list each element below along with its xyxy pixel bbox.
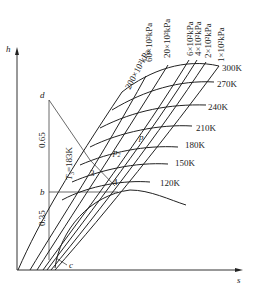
isobar-label-2: 2×10²kPa <box>203 23 213 58</box>
isotherm-label-180: 180K <box>185 140 206 150</box>
saturation-curve <box>55 190 186 268</box>
s-axis-label: s <box>237 275 241 285</box>
point-b-label: b <box>40 187 45 197</box>
isobar-20 <box>37 65 168 270</box>
point-c-label: c <box>69 260 73 270</box>
s-axis-arrow-icon <box>235 268 243 272</box>
h-s-diagram: 200×10²kPa 60×10²kPa 20×10²kPa 6×10²kPa … <box>0 0 253 286</box>
isobar-label-60: 60×10²kPa <box>144 23 154 62</box>
isobar-label-20: 20×10²kPa <box>162 19 172 58</box>
isobar-label-4: 4×10²kPa <box>193 21 203 56</box>
fraction-upper-label: 0.65 <box>37 132 47 148</box>
point-d-label: d <box>40 90 45 100</box>
isobar-60 <box>30 76 146 270</box>
isobar-label-1: 1×10²kPa <box>216 27 226 62</box>
isotherm-label-300: 300K <box>222 63 243 73</box>
point-4-label: 4 <box>113 177 118 187</box>
isotherm-label-150: 150K <box>175 158 196 168</box>
point-p2-label: p2 <box>112 147 121 158</box>
point-3-label: 3 <box>90 168 95 178</box>
h-axis-arrow-icon <box>15 47 19 55</box>
isobar-200 <box>18 92 122 270</box>
isotherm-label-240: 240K <box>208 102 229 112</box>
h-axis-label: h <box>6 44 11 54</box>
isotherm-label-120: 120K <box>160 178 181 188</box>
isotherm-180 <box>80 147 178 165</box>
t3-label: T3=183K <box>64 146 75 180</box>
fraction-lower-label: 0.35 <box>37 210 47 226</box>
point-p-label: p <box>138 132 144 142</box>
isotherm-label-210: 210K <box>196 123 217 133</box>
isotherm-label-270: 270K <box>217 79 238 89</box>
